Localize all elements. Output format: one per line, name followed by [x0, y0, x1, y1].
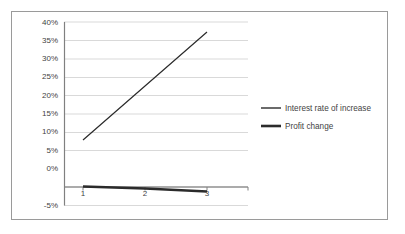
series-line-interest-rate	[83, 32, 207, 140]
gridlines	[64, 22, 248, 206]
chart-plot-area	[0, 0, 405, 234]
